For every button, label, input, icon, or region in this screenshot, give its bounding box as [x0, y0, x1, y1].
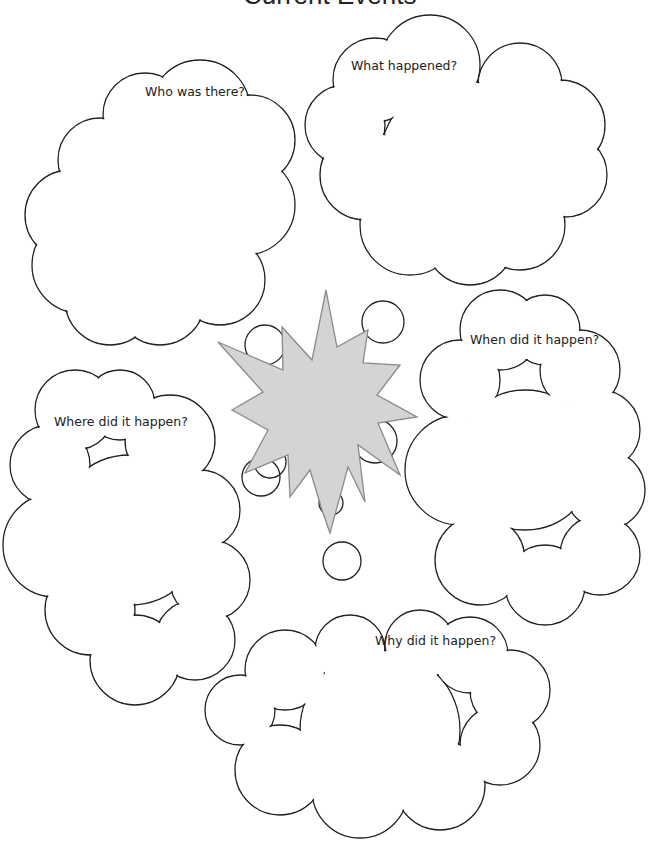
cloud-who [25, 60, 295, 345]
starburst-center [218, 290, 417, 533]
label-who: Who was there? [145, 84, 245, 99]
label-why: Why did it happen? [375, 633, 496, 648]
cloud-what [305, 15, 607, 285]
label-when: When did it happen? [470, 332, 599, 347]
label-what: What happened? [351, 58, 457, 73]
label-where: Where did it happen? [54, 414, 188, 429]
